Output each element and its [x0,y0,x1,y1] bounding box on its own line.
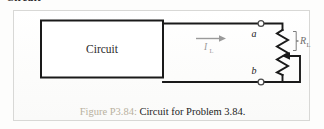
figure-caption: Figure P3.84: Circuit for Problem 3.84. [14,106,311,117]
circuit-block-label: Circuit [86,43,119,55]
current-arrow-group: I L [196,35,226,53]
terminal-node-b [258,79,264,85]
terminal-node-a [258,21,264,27]
resistor-zigzag [277,30,288,75]
load-resistor-group: R L [277,30,311,75]
scanned-page-background: Circuit Circuit [0,0,324,129]
load-resistor-label: R [299,35,306,46]
figure-caption-text: Circuit for Problem 3.84. [139,106,245,117]
figure-caption-number: Figure P3.84: [80,106,137,117]
figure-panel: Circuit a b [13,10,310,121]
resistor-bracket [293,32,298,51]
clipped-page-heading: Circuit [6,0,41,2]
current-arrow-head [219,35,226,41]
terminal-nodes: a b [252,21,264,85]
wire-top-to-resistor [264,24,283,31]
wire-bottom-to-resistor [264,75,283,82]
terminal-label-b: b [252,65,257,76]
circuit-diagram: Circuit a b [14,11,311,97]
wire-wiper-lead [283,56,301,82]
current-label-subscript: L [210,47,214,54]
terminal-label-a: a [252,28,257,39]
current-label: I [203,42,208,52]
load-resistor-label-subscript: L [307,41,311,48]
circuit-block: Circuit [41,21,163,78]
